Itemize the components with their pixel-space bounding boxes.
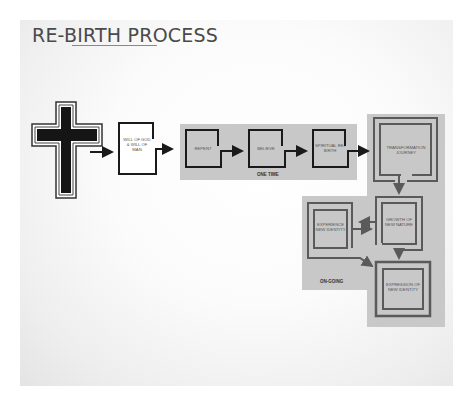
node-believe-label: BELIEVE (251, 146, 281, 151)
group-one-time-label: ONE TIME (257, 172, 279, 177)
node-repent-label: REPENT (188, 146, 218, 151)
group-on-going-label: ON-GOING (320, 279, 343, 284)
diagram-shapes (0, 0, 470, 409)
node-experience-label: EXPERIENCE NEW IDENTITY (315, 222, 346, 232)
node-spiritual-label: SPIRITUAL RE-BIRTH (314, 143, 346, 153)
node-will-label: WILL OF GOD & WILL OF MAN (122, 137, 152, 152)
node-growth-label: GROWTH OF NEW NATURE (384, 217, 414, 227)
node-transformation-label: TRANSFORMATION JOURNEY (381, 145, 431, 155)
node-expression-label: EXPRESSION OF NEW IDENTITY (385, 282, 421, 292)
cross-icon (32, 102, 102, 198)
